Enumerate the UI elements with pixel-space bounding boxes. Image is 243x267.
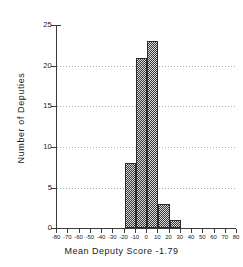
x-tick — [169, 229, 170, 233]
x-tick — [112, 229, 113, 233]
x-tick — [79, 229, 80, 233]
x-tick — [191, 229, 192, 233]
plot-area: 25 20 15 10 5 0 -80 -70 -60 -50 -40 -30 … — [0, 0, 243, 267]
histogram-bar — [125, 163, 136, 228]
x-tick — [90, 229, 91, 233]
histogram-figure: 25 20 15 10 5 0 -80 -70 -60 -50 -40 -30 … — [0, 0, 243, 267]
x-tick — [202, 229, 203, 233]
y-tick-label: 15 — [28, 102, 52, 110]
y-tick-label: 10 — [28, 143, 52, 151]
x-tick — [135, 229, 136, 233]
x-tick — [56, 229, 57, 233]
x-tick — [214, 229, 215, 233]
x-tick — [101, 229, 102, 233]
x-tick — [146, 229, 147, 233]
y-tick-label: 20 — [28, 62, 52, 70]
x-tick — [180, 229, 181, 233]
x-tick-label: 80 — [226, 234, 243, 240]
y-tick-label: 0 — [28, 224, 52, 232]
x-tick — [124, 229, 125, 233]
x-tick — [225, 229, 226, 233]
histogram-bar — [158, 204, 169, 228]
y-tick-label: 25 — [28, 21, 52, 29]
y-axis-title: Number of Deputies — [16, 53, 26, 183]
x-axis-title: Mean Deputy Score -1.79 — [0, 246, 243, 256]
histogram-bar — [136, 58, 147, 229]
y-tick-label: 5 — [28, 184, 52, 192]
y-axis-line — [56, 25, 57, 229]
histogram-bar — [147, 41, 158, 228]
histogram-bar — [170, 220, 181, 228]
x-tick — [67, 229, 68, 233]
x-tick — [157, 229, 158, 233]
x-tick — [236, 229, 237, 233]
